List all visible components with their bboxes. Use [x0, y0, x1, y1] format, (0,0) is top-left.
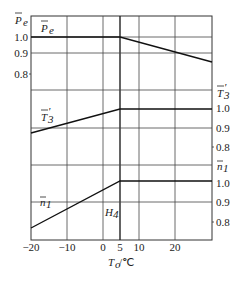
svg-text:1: 1 [223, 162, 229, 174]
n1-tick-08: 0.8 [216, 216, 230, 228]
pe-axis-label: P e [14, 13, 28, 28]
x-tick-m10: −10 [58, 241, 76, 253]
pe-curve [31, 37, 212, 62]
svg-text:T: T [108, 256, 115, 268]
x-tick-m20: −20 [22, 241, 40, 253]
svg-text:T: T [41, 111, 48, 123]
n1-tick-09: 0.9 [216, 196, 230, 208]
svg-text:P: P [40, 22, 48, 34]
t3-axis-label: T ′ 3 [217, 81, 230, 101]
t3-tick-10: 1.0 [216, 102, 230, 114]
svg-text:P: P [14, 14, 22, 26]
n1-curve [31, 181, 212, 228]
n1-curve-label: n 1 [40, 196, 52, 210]
pe-tick-09: 0.9 [14, 47, 28, 59]
t3-tick-08: 0.8 [216, 141, 230, 153]
svg-text:4: 4 [113, 208, 119, 220]
svg-text:e: e [49, 24, 54, 36]
n1-tick-10: 1.0 [216, 177, 230, 189]
svg-text:3: 3 [47, 113, 54, 125]
pe-curve-label: P e [40, 21, 54, 36]
horizontal-gridlines [31, 37, 212, 202]
svg-text:3: 3 [223, 89, 230, 101]
n1-axis-label: n 1 [217, 160, 229, 174]
pe-tick-10: 1.0 [14, 31, 28, 43]
svg-text:1: 1 [46, 198, 52, 210]
x-tick-20: 20 [170, 241, 182, 253]
x-tick-0: 0 [100, 241, 106, 253]
x-tick-5: 5 [117, 241, 123, 253]
x-axis-label: T o /℃ [108, 256, 134, 270]
t3-curve-label: T ′ 3 [41, 105, 54, 125]
t3-tick-09: 0.9 [216, 122, 230, 134]
t3-curve [31, 109, 212, 133]
h4-label: H 4 [104, 206, 119, 220]
svg-text:/℃: /℃ [119, 256, 134, 268]
x-tick-10: 10 [134, 241, 146, 253]
chart: P e 1.0 0.9 0.8 P e T ′ 3 n 1 H 4 T ′ 3 … [0, 0, 242, 282]
svg-text:e: e [23, 16, 28, 28]
svg-text:T: T [217, 87, 224, 99]
pe-tick-08: 0.8 [14, 68, 28, 80]
